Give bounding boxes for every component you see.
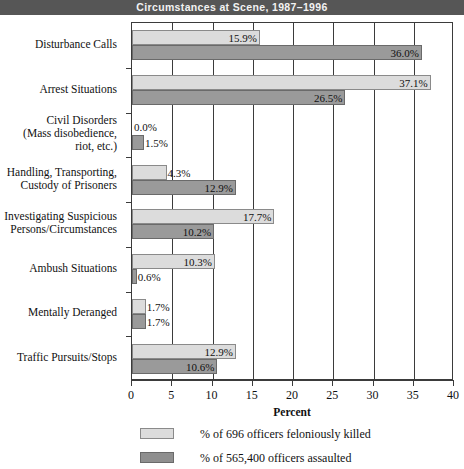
category-label: Traffic Pursuits/Stops: [0, 351, 125, 364]
x-tick: [171, 380, 172, 386]
legend-label: % of 565,400 officers assaulted: [200, 447, 351, 469]
x-tick: [131, 380, 132, 386]
x-tick-label: 40: [447, 388, 459, 403]
x-tick: [453, 380, 454, 386]
legend-item: % of 565,400 officers assaulted: [140, 447, 464, 469]
bar: 4.3%: [132, 165, 167, 180]
category-label: Handling, Transporting, Custody of Priso…: [0, 166, 125, 192]
x-tick-label: 15: [246, 388, 258, 403]
plot-area: 15.9%36.0%37.1%26.5%0.0%1.5%4.3%12.9%17.…: [131, 22, 453, 380]
bar-value-label: 1.7%: [145, 300, 170, 315]
bar: 37.1%: [132, 75, 431, 90]
x-tick-label: 25: [326, 388, 338, 403]
bar-value-label: 12.9%: [204, 345, 232, 360]
x-tick: [373, 380, 374, 386]
bar-value-label: 36.0%: [390, 46, 418, 61]
category-label: Investigating Suspicious Persons/Circums…: [0, 210, 125, 236]
bar: 1.5%: [132, 135, 144, 150]
chart-figure: Disturbance CallsArrest SituationsCivil …: [0, 15, 464, 462]
x-tick-label: 35: [407, 388, 419, 403]
bar-value-label: 37.1%: [399, 76, 427, 91]
x-tick: [292, 380, 293, 386]
category-tick: [126, 68, 132, 69]
bar: 10.2%: [132, 224, 214, 239]
category-tick: [126, 336, 132, 337]
x-axis: 0510152025303540: [131, 380, 453, 381]
bar: 1.7%: [132, 299, 146, 314]
category-label: Ambush Situations: [0, 262, 125, 275]
category-label: Mentally Deranged: [0, 306, 125, 319]
bar-value-label: 1.7%: [145, 315, 170, 330]
legend-swatch: [140, 428, 174, 439]
bar-value-label: 15.9%: [229, 31, 257, 46]
legend-label: % of 696 officers feloniously killed: [200, 423, 371, 445]
category-label: Disturbance Calls: [0, 38, 125, 51]
page-title: Circumstances at Scene, 1987–1996: [0, 0, 464, 15]
x-tick: [332, 380, 333, 386]
bar: 1.7%: [132, 314, 146, 329]
category-label: Civil Disorders (Mass disobedience, riot…: [0, 114, 125, 153]
bar: 36.0%: [132, 45, 422, 60]
x-tick-label: 5: [168, 388, 174, 403]
bar-value-label: 0.6%: [136, 270, 161, 285]
bar-value-label: 0.0%: [132, 120, 157, 135]
bar: 17.7%: [132, 209, 274, 224]
bar-value-label: 4.3%: [166, 166, 191, 181]
x-tick-label: 0: [128, 388, 134, 403]
bar-value-label: 26.5%: [314, 91, 342, 106]
bar: 12.9%: [132, 344, 236, 359]
bar: 15.9%: [132, 30, 260, 45]
bar-value-label: 1.5%: [143, 136, 168, 151]
x-tick: [212, 380, 213, 386]
legend-item: % of 696 officers feloniously killed: [140, 423, 464, 447]
bar: 10.6%: [132, 359, 217, 374]
x-tick-label: 10: [206, 388, 218, 403]
category-axis-labels: Disturbance CallsArrest SituationsCivil …: [0, 15, 125, 373]
bar: 0.6%: [132, 269, 137, 284]
bar-value-label: 10.3%: [183, 255, 211, 270]
chart-title-band: Circumstances at Scene, 1987–1996: [0, 0, 464, 15]
category-tick: [126, 202, 132, 203]
category-tick: [126, 157, 132, 158]
bar: 26.5%: [132, 90, 345, 105]
category-label: Arrest Situations: [0, 83, 125, 96]
legend-swatch: [140, 452, 174, 463]
x-axis-title: Percent: [131, 406, 453, 418]
category-tick: [126, 113, 132, 114]
category-tick: [126, 247, 132, 248]
chart-legend: % of 696 officers feloniously killed% of…: [140, 423, 464, 469]
category-tick: [126, 292, 132, 293]
bar-value-label: 17.7%: [243, 210, 271, 225]
bar-value-label: 10.2%: [183, 225, 211, 240]
x-tick: [252, 380, 253, 386]
bar-value-label: 10.6%: [186, 360, 214, 375]
x-tick: [413, 380, 414, 386]
bar: 10.3%: [132, 254, 215, 269]
x-tick-label: 30: [367, 388, 379, 403]
bar-value-label: 12.9%: [204, 181, 232, 196]
x-tick-label: 20: [286, 388, 298, 403]
bar: 12.9%: [132, 180, 236, 195]
